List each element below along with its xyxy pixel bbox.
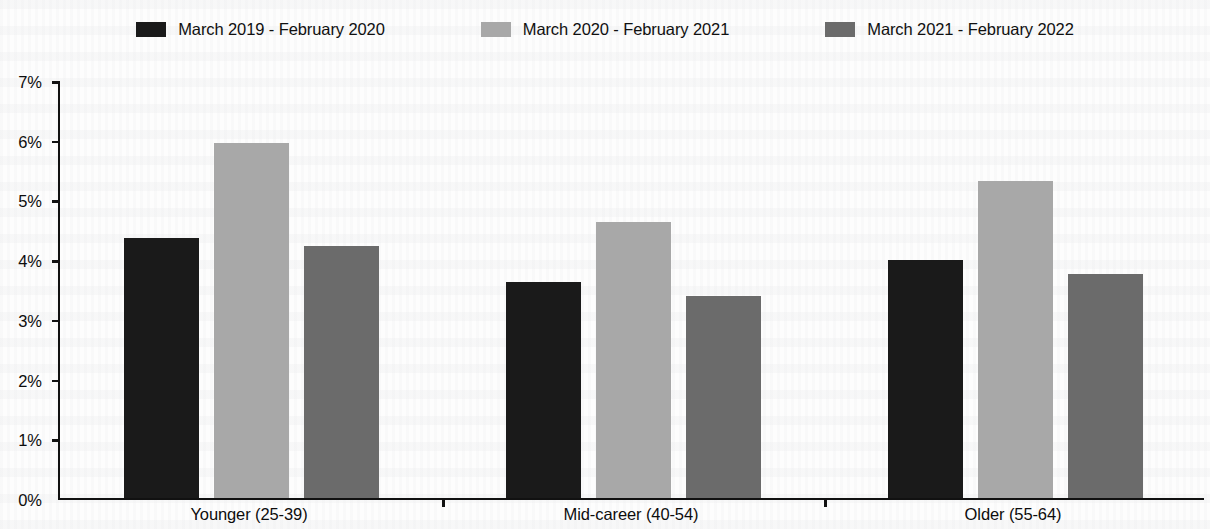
bar[interactable] [214, 143, 289, 498]
chart-legend: March 2019 - February 2020March 2020 - F… [0, 0, 1210, 58]
bar[interactable] [596, 222, 671, 498]
legend-label: March 2020 - February 2021 [523, 20, 730, 39]
bar[interactable] [888, 260, 963, 498]
plot-area [58, 82, 1204, 500]
y-axis-tick-label: 5% [18, 192, 42, 211]
bar[interactable] [506, 282, 581, 498]
y-axis-tick-mark [52, 380, 60, 383]
y-axis-tick-label: 6% [18, 132, 42, 151]
y-axis-tick-label: 4% [18, 252, 42, 271]
y-axis-tick-label: 1% [18, 431, 42, 450]
y-axis-tick-mark [52, 141, 60, 144]
legend-entry[interactable]: March 2020 - February 2021 [481, 20, 730, 39]
y-axis-tick-mark [52, 81, 60, 84]
x-axis-category-label: Younger (25-39) [190, 505, 307, 524]
bar-group [124, 82, 379, 498]
legend-entry[interactable]: March 2019 - February 2020 [136, 20, 385, 39]
bar-group [506, 82, 761, 498]
legend-swatch-icon [136, 22, 166, 37]
x-axis-category-label: Mid-career (40-54) [564, 505, 699, 524]
legend-swatch-icon [481, 22, 511, 37]
legend-label: March 2021 - February 2022 [867, 20, 1074, 39]
grouped-bar-chart: March 2019 - February 2020March 2020 - F… [0, 0, 1210, 529]
bar[interactable] [124, 238, 199, 498]
bar[interactable] [978, 181, 1053, 498]
y-axis-tick-mark [52, 320, 60, 323]
y-axis-tick-mark [52, 260, 60, 263]
x-axis: Younger (25-39)Mid-career (40-54)Older (… [58, 505, 1204, 529]
legend-label: March 2019 - February 2020 [178, 20, 385, 39]
y-axis: 0%1%2%3%4%5%6%7% [0, 0, 50, 529]
x-axis-category-label: Older (55-64) [965, 505, 1062, 524]
legend-entry[interactable]: March 2021 - February 2022 [825, 20, 1074, 39]
bar[interactable] [686, 296, 761, 498]
y-axis-tick-mark [52, 439, 60, 442]
y-axis-tick-label: 0% [18, 491, 42, 510]
y-axis-tick-mark [52, 200, 60, 203]
bar-group [888, 82, 1143, 498]
y-axis-tick-label: 2% [18, 371, 42, 390]
legend-swatch-icon [825, 22, 855, 37]
y-axis-tick-label: 7% [18, 73, 42, 92]
bar[interactable] [1068, 274, 1143, 498]
bar[interactable] [304, 246, 379, 498]
y-axis-tick-label: 3% [18, 311, 42, 330]
